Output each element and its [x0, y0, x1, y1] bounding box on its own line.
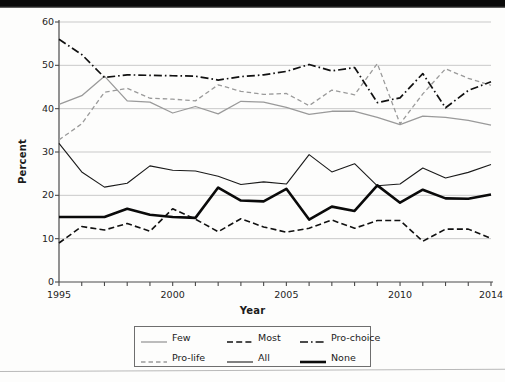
- legend-label: Few: [172, 332, 191, 343]
- y-tick-label: 60: [28, 16, 54, 27]
- y-tick-label: 20: [28, 189, 54, 200]
- legend-swatch-dashed-icon: [227, 332, 253, 342]
- y-tick-label: 10: [28, 233, 54, 244]
- y-tick-label: 0: [28, 276, 54, 287]
- legend-swatch-solid-icon: [141, 332, 167, 342]
- legend-swatch-dashdot-icon: [300, 332, 326, 342]
- scanned-figure-page: Percent Year 0102030405060 1995200020052…: [0, 0, 505, 382]
- legend-item-all: All: [227, 352, 300, 363]
- legend-swatch-dashed-icon: [141, 352, 167, 362]
- legend-item-few: Few: [141, 332, 227, 343]
- legend-item-most: Most: [227, 332, 300, 343]
- x-tick-label: 2010: [384, 289, 416, 300]
- chart-legend: FewMostPro-choicePro-lifeAllNone: [134, 326, 371, 367]
- x-tick-label: 1995: [43, 289, 75, 300]
- series-line-most: [59, 209, 491, 243]
- line-chart-plot: [0, 8, 505, 374]
- legend-item-pro-choice: Pro-choice: [300, 332, 378, 343]
- legend-item-none: None: [300, 352, 378, 363]
- y-tick-label: 30: [28, 146, 54, 157]
- legend-label: Most: [258, 332, 281, 343]
- y-axis-label: Percent: [17, 132, 28, 192]
- x-axis-label: Year: [0, 305, 505, 316]
- series-line-few: [59, 76, 491, 125]
- y-tick-label: 50: [28, 59, 54, 70]
- y-tick-label: 40: [28, 103, 54, 114]
- legend-item-pro-life: Pro-life: [141, 352, 227, 363]
- legend-swatch-solid-icon: [300, 352, 326, 362]
- series-line-none: [59, 185, 491, 219]
- x-tick-label: 2005: [270, 289, 302, 300]
- series-line-all: [59, 143, 491, 187]
- legend-label: Pro-life: [172, 352, 205, 363]
- legend-label: All: [258, 352, 270, 363]
- legend-label: Pro-choice: [331, 332, 380, 343]
- legend-label: None: [331, 352, 356, 363]
- x-tick-label: 2000: [157, 289, 189, 300]
- chart-figure: Percent Year 0102030405060 1995200020052…: [0, 8, 505, 374]
- x-tick-label: 2014: [475, 289, 505, 300]
- legend-swatch-solid-icon: [227, 352, 253, 362]
